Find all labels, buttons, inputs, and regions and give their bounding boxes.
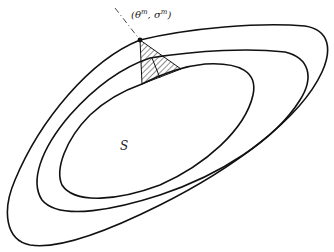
hatched-region: [140, 40, 181, 84]
middle-contour: [37, 50, 308, 212]
contour-diagram: (θm, σm) S: [0, 0, 334, 252]
region-label-s: S: [120, 139, 128, 153]
point-label: (θm, σm): [131, 8, 171, 20]
inner-contour: [60, 64, 254, 198]
optimum-point: [138, 38, 143, 43]
